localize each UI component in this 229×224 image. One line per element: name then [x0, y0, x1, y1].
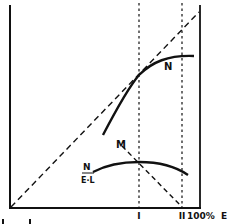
M-line-label: M: [116, 139, 126, 150]
ratio-label-numerator: N: [83, 162, 91, 172]
bottom-fragment-mark: [2, 219, 4, 224]
tick-I-label: I: [137, 211, 140, 221]
diagonal-dashed-line: [11, 12, 199, 207]
tick-II-label: II: [179, 211, 186, 221]
bottom-fragment-mark: [29, 219, 31, 224]
N-curve-label: N: [164, 61, 172, 72]
x-axis-label: E: [221, 211, 227, 221]
M-dashed-line: [122, 146, 182, 207]
N-curve: [103, 56, 194, 135]
diagram-canvas: N M N E·L I II 100% E: [0, 0, 229, 224]
tick-100-label: 100%: [187, 211, 215, 221]
ratio-label-denominator: E·L: [81, 176, 95, 185]
